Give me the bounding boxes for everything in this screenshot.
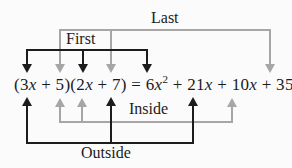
arrow-up-icon [188,97,198,106]
equation-text: (3x + 5)(2x + 7) = 6x2 + 21x + 10x + 35 [14,75,292,94]
last-stub-35 [269,29,271,66]
arrow-up-icon [77,98,87,107]
last-bracket-line [59,29,271,31]
arrow-down-icon [265,64,275,73]
arrow-down-icon [22,64,32,73]
inside-stub-2x [81,105,83,123]
label-last: Last [151,10,179,26]
equation: (3x + 5)(2x + 7) = 6x2 + 21x + 10x + 35 [14,76,292,95]
outside-stub-21x [192,104,194,144]
last-stub-7 [110,29,112,66]
arrow-down-icon [55,64,65,73]
label-outside: Outside [81,145,131,161]
inside-stub-10x [231,105,233,123]
inside-stub-5 [59,105,61,123]
outside-stub-3x [26,104,28,144]
foil-diagram: Last First Inside Outside (3x + 5)(2x + … [0,0,292,168]
label-first: First [66,31,95,47]
arrow-up-icon [106,97,116,106]
arrow-down-icon [142,64,152,73]
outside-stub-7 [110,104,112,144]
arrow-up-icon [227,98,237,107]
arrow-down-icon [78,64,88,73]
label-inside: Inside [129,101,168,117]
last-stub-5 [59,29,61,66]
inside-bracket-line [59,121,233,123]
arrow-down-icon [106,64,116,73]
first-bracket-line [26,49,148,51]
arrow-up-icon [55,98,65,107]
arrow-up-icon [22,97,32,106]
